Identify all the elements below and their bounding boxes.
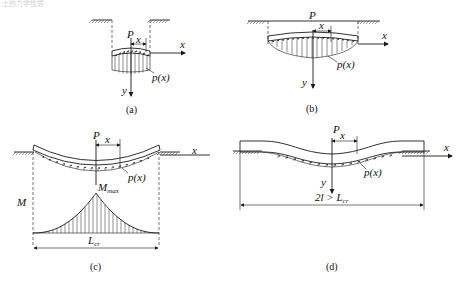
ground-hatch-stroke [360, 21, 363, 24]
caption: (d) [326, 261, 338, 273]
ground-hatch-left [247, 21, 265, 24]
panel-d: P x x y p(x) 2l > Lcr (d) [233, 123, 452, 273]
ground-hatch-stroke [253, 21, 256, 24]
ground-hatch-stroke [95, 20, 98, 23]
y-axis-label: y [301, 76, 307, 88]
x-axis-label: x [179, 38, 185, 50]
moment-diagram [33, 193, 159, 233]
offset-label: x [318, 19, 324, 31]
ground-hatch-stroke [165, 20, 168, 23]
ground-hatch-stroke [153, 20, 156, 23]
ground-hatch-stroke [92, 20, 95, 23]
ground-surface-right [147, 20, 170, 23]
offset-label: x [135, 33, 141, 45]
caption: (c) [90, 261, 101, 273]
panel-c: P x x p(x) M Mmax Lcr (c) [13, 129, 210, 273]
ground-hatch-stroke [156, 20, 159, 23]
x-axis-label: x [191, 144, 197, 156]
critical-length-label: Lcr [87, 234, 100, 248]
ground-hatch-stroke [104, 20, 107, 23]
pressure-diagram [35, 152, 159, 171]
caption: (b) [306, 103, 318, 115]
panel-a: P x x y p(x) (a) [89, 20, 185, 116]
offset-label: x [104, 133, 110, 145]
header-text: 土的力学性质 [2, 0, 44, 8]
ground-hatch-stroke [162, 20, 165, 23]
ground-hatch-stroke [363, 21, 366, 24]
ground-surface-left [89, 20, 112, 23]
force-label: P [332, 123, 340, 135]
ground-hatch-stroke [372, 21, 375, 24]
offset-label: x [339, 129, 345, 141]
ground-hatch-stroke [247, 21, 250, 24]
half-length-label: 2l > Lcr [315, 191, 349, 205]
ground-hatch-stroke [147, 20, 150, 23]
pressure-label: p(x) [336, 58, 355, 71]
ground-hatch-stroke [101, 20, 104, 23]
ground-hatch-stroke [262, 21, 265, 24]
ground-hatch-stroke [159, 20, 162, 23]
ground-hatch-stroke [369, 21, 372, 24]
y-axis-label: y [320, 176, 326, 188]
ground-hatch-stroke [98, 20, 101, 23]
ground-hatch-stroke [150, 20, 153, 23]
ground-hatch-stroke [250, 21, 253, 24]
ground-hatch-stroke [259, 21, 262, 24]
moment-axis-label: M [16, 196, 27, 208]
moment-hatch [37, 194, 157, 233]
force-label: P [126, 28, 134, 40]
moment-max-label: Mmax [97, 181, 120, 195]
pressure-label: p(x) [127, 171, 146, 184]
panel-b: P x x y p(x) (b) [247, 9, 388, 115]
ground-hatch-stroke [375, 21, 378, 24]
ground-hatch-right [357, 21, 378, 24]
pressure-arrows [272, 38, 352, 58]
beam-on-foundation-diagram: 土的力学性质 P x x y p(x) (a) [0, 0, 457, 283]
ground-hatch-stroke [256, 21, 259, 24]
force-label: P [92, 129, 100, 141]
x-axis-label: x [443, 141, 449, 153]
force-label: P [308, 9, 316, 21]
ground-hatch-stroke [107, 20, 110, 23]
ground-hatch-stroke [89, 20, 92, 23]
pressure-label: p(x) [363, 166, 382, 179]
pressure-label: p(x) [151, 71, 170, 84]
x-axis-label: x [381, 29, 387, 41]
ground-hatch-stroke [357, 21, 360, 24]
beam [33, 145, 160, 165]
pressure-leader [328, 56, 337, 62]
caption: (a) [126, 104, 137, 116]
ground-hatch-stroke [366, 21, 369, 24]
y-axis-label: y [121, 84, 127, 96]
